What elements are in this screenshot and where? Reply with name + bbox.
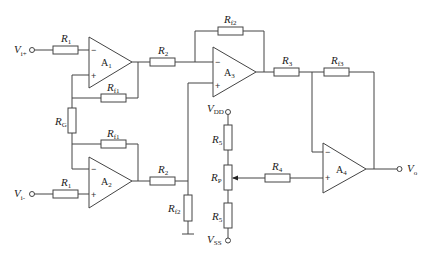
a2-plus-sign: + <box>91 190 96 200</box>
r5-bot-label: R5 <box>211 210 223 224</box>
resistor-r5-bot <box>224 203 232 228</box>
vout-terminal: Vo <box>397 162 418 177</box>
rg-label: RG <box>54 115 67 129</box>
a4-plus-sign: + <box>325 173 330 183</box>
a4-minus-sign: − <box>325 147 330 157</box>
resistor-r4 <box>265 174 290 182</box>
rf1-top-label: Rf1 <box>106 81 120 95</box>
resistor-rf2-top <box>218 27 243 35</box>
rf2-top-label: Rf2 <box>223 13 237 27</box>
resistor-r2-top <box>150 58 175 66</box>
resistor-rg <box>68 108 76 133</box>
resistor-r1-bot <box>53 190 78 198</box>
vin-minus-terminal: Vi- <box>14 187 35 202</box>
vout-label: Vo <box>407 162 418 177</box>
vin-plus-terminal: Vi+ <box>14 43 35 58</box>
r2-top-label: R2 <box>157 44 169 58</box>
r3-label: R3 <box>281 54 293 68</box>
vin-plus-label: Vi+ <box>14 43 27 58</box>
a3-minus-sign: − <box>215 57 220 67</box>
rf2-bot-label: Rf2 <box>167 202 181 216</box>
resistor-r2-bot <box>150 177 175 185</box>
resistor-r3 <box>274 68 299 76</box>
potentiometer-rp <box>224 165 232 190</box>
vss-label: VSS <box>207 233 222 247</box>
vin-minus-label: Vi- <box>14 187 26 202</box>
r5-top-label: R5 <box>211 133 223 147</box>
r1-top-label: R1 <box>60 32 72 46</box>
resistor-rf1-bot <box>101 140 126 148</box>
resistor-rf3 <box>324 68 349 76</box>
resistor-r1-top <box>53 46 78 54</box>
r4-label: R4 <box>271 160 283 174</box>
resistor-rf1-top <box>101 94 126 102</box>
a3-plus-sign: + <box>215 81 220 91</box>
resistor-r5-top <box>224 125 232 150</box>
vss-terminal: VSS <box>207 233 231 247</box>
rf1-bot-label: Rf1 <box>106 127 120 141</box>
rp-label: RP <box>210 171 222 185</box>
a1-minus-sign: − <box>91 45 96 55</box>
resistor-rf2-bot <box>184 195 192 221</box>
r2-bot-label: R2 <box>157 163 169 177</box>
a1-plus-sign: + <box>91 71 96 81</box>
wiper-arrow-icon <box>232 176 238 181</box>
r1-bot-label: R1 <box>60 176 72 190</box>
a2-minus-sign: − <box>91 164 96 174</box>
vdd-label: VDD <box>207 102 224 116</box>
circuit-diagram: Vi+ R1 − + A1 Rf1 RG Rf1 − + A2 Vi- R1 R… <box>0 0 430 262</box>
vdd-terminal: VDD <box>207 102 231 116</box>
rf3-label: Rf3 <box>330 54 344 68</box>
